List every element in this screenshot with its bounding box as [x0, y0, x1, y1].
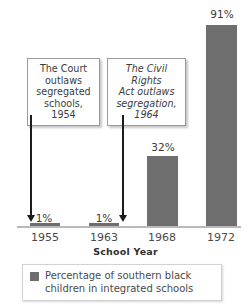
bar-1972: [206, 25, 237, 226]
legend-label: Percentage of southern black children in…: [45, 270, 193, 295]
bar-value-label-1972: 91%: [201, 8, 243, 20]
legend-swatch-icon: [30, 272, 39, 281]
callout-arrow-shaft-1963: [122, 115, 124, 216]
x-tick-1968: 1968: [137, 231, 187, 244]
plot-area: 1% 1% 32% 91% The Court outlaws segregat…: [0, 0, 251, 232]
x-tick-1955: 1955: [20, 231, 70, 244]
callout-line-2: outlaws: [31, 75, 96, 87]
callout-line-2: Act outlaws: [111, 86, 182, 98]
x-tick-1972: 1972: [196, 231, 246, 244]
bar-1968: [147, 156, 178, 226]
callout-arrow-head-1963: [119, 215, 127, 222]
chart-legend: Percentage of southern black children in…: [22, 264, 222, 301]
legend-label-line-2: children in integrated schools: [45, 283, 193, 296]
callout-arrow-head-1955: [27, 215, 35, 222]
x-axis-line: [17, 226, 241, 228]
bar-chart-figure: 1% 1% 32% 91% The Court outlaws segregat…: [0, 0, 251, 307]
callout-line-3: segregated: [31, 86, 96, 98]
x-axis-title: School Year: [0, 246, 251, 257]
callout-brown-v-board: The Court outlaws segregated schools, 19…: [27, 58, 100, 126]
callout-civil-rights-act: The Civil Rights Act outlaws segregation…: [107, 58, 186, 126]
callout-arrow-shaft-1955: [30, 115, 32, 216]
callout-line-3: segregation,: [111, 98, 182, 110]
x-tick-1963: 1963: [79, 231, 129, 244]
legend-label-line-1: Percentage of southern black: [45, 270, 193, 283]
callout-line-4: schools, 1954: [31, 98, 96, 121]
callout-line-1: The Civil Rights: [111, 63, 182, 86]
bar-value-label-1968: 32%: [142, 141, 184, 153]
callout-line-1: The Court: [31, 63, 96, 75]
